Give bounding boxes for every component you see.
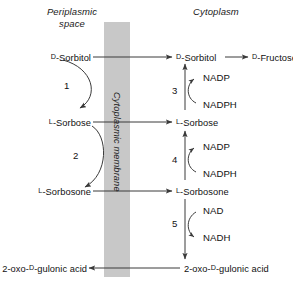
metabolite-peri-gulonic-acid: 2-oxo-D-gulonic acid — [0, 263, 87, 274]
cofactor-nadh-reaction-5: NADH — [203, 232, 230, 243]
cofactor-nadp-reaction-4: NADP — [203, 141, 230, 152]
reaction-number-1: 1 — [64, 80, 69, 91]
metabolite-cyto-gulonic-name: -gulonic acid — [216, 264, 269, 274]
metabolite-cyto-sorbose-name: -Sorbose — [180, 118, 218, 128]
reaction-number-4: 4 — [172, 154, 177, 165]
cofactor-nad-reaction-5: NAD — [203, 205, 223, 216]
cytoplasm-header: Cytoplasm — [170, 6, 262, 18]
metabolite-cyto-gulonic-prefix-text: 2-oxo- — [184, 264, 211, 274]
cofactor-nadp-reaction-3: NADP — [203, 72, 230, 83]
reaction-number-3: 3 — [172, 85, 177, 96]
metabolite-cyto-fructose-name: -Fructose — [257, 53, 293, 63]
metabolite-cyto-sorbitol-name: -Sorbitol — [181, 53, 216, 63]
metabolite-peri-sorbitol: D-Sorbitol — [0, 52, 91, 63]
cytoplasm-header-label: Cytoplasm — [193, 6, 239, 17]
metabolite-peri-sorbosone: L-Sorbosone — [0, 186, 91, 197]
pathway-diagram — [0, 0, 293, 283]
metabolite-cyto-sorbose: L-Sorbose — [176, 117, 218, 128]
metabolite-cyto-sorbitol: D-Sorbitol — [176, 52, 216, 63]
metabolite-peri-sorbitol-name: -Sorbitol — [56, 53, 91, 63]
reaction-number-2: 2 — [73, 150, 78, 161]
cytoplasmic-membrane-label: Cytoplasmic membrane — [112, 92, 122, 192]
reaction-number-5: 5 — [172, 218, 177, 229]
cofactor-nadph-reaction-3: NADPH — [203, 99, 237, 110]
metabolite-peri-sorbose: L-Sorbose — [0, 117, 91, 128]
cofactor-arc-4 — [188, 148, 196, 172]
periplasm-header-line2: space — [59, 18, 85, 29]
reaction-arc-2 — [85, 126, 104, 187]
metabolite-cyto-fructose: D-Fructose — [252, 52, 293, 63]
periplasm-header-line1: Periplasmic — [47, 6, 97, 17]
metabolite-cyto-sorbosone: L-Sorbosone — [176, 186, 229, 197]
metabolite-peri-gulonic-prefix-text: 2-oxo- — [2, 264, 29, 274]
cofactor-arc-5 — [188, 212, 196, 237]
cofactor-nadph-reaction-4: NADPH — [203, 168, 237, 179]
periplasm-header: Periplasmic space — [22, 6, 122, 29]
metabolite-peri-sorbosone-name: -Sorbosone — [42, 187, 91, 197]
metabolite-cyto-sorbosone-name: -Sorbosone — [180, 187, 229, 197]
metabolite-peri-gulonic-name: -gulonic acid — [34, 264, 87, 274]
cofactor-arc-3 — [188, 79, 196, 103]
metabolite-peri-sorbose-name: -Sorbose — [53, 118, 91, 128]
metabolite-cyto-gulonic-acid: 2-oxo-D-gulonic acid — [184, 263, 269, 274]
